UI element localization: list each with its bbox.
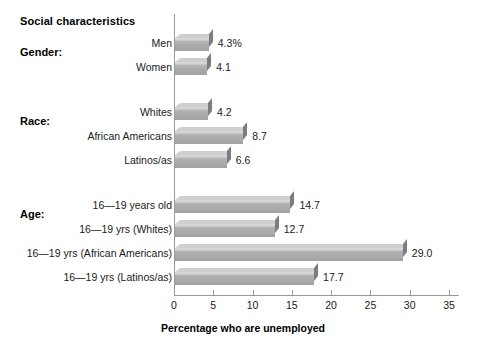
- x-tick-label: 25: [365, 299, 377, 311]
- bar: [175, 248, 403, 261]
- group-heading: Age:: [20, 208, 44, 220]
- category-label: Women: [136, 61, 172, 73]
- x-tick-label: 15: [286, 299, 298, 311]
- category-label: 16—19 yrs (Whites): [79, 223, 172, 235]
- plot-area: 4.3%4.14.28.76.614.712.729.017.7 0510152…: [174, 14, 470, 296]
- x-tick: [370, 290, 371, 296]
- x-tick-label: 5: [210, 299, 216, 311]
- bar-value-label: 12.7: [284, 223, 304, 235]
- x-tick: [213, 290, 214, 296]
- x-tick-label: 0: [171, 299, 177, 311]
- bar: [175, 62, 207, 75]
- x-axis-line: [174, 295, 459, 296]
- x-tick-label: 35: [443, 299, 455, 311]
- bar-value-label: 29.0: [412, 247, 432, 259]
- category-label: 16—19 yrs (Latinos/as): [63, 271, 172, 283]
- x-tick: [253, 290, 254, 296]
- x-tick-label: 10: [247, 299, 259, 311]
- category-label: 16—19 years old: [93, 199, 172, 211]
- category-label: 16—19 yrs (African Americans): [27, 247, 172, 259]
- category-label: Latinos/as: [124, 154, 172, 166]
- page-title: Social characteristics: [20, 15, 135, 27]
- bar: [175, 131, 243, 144]
- bar-value-label: 17.7: [323, 271, 343, 283]
- chart-figure: Social characteristics Gender:Race:Age: …: [0, 0, 486, 348]
- x-tick: [174, 290, 175, 296]
- x-axis-title: Percentage who are unemployed: [0, 322, 486, 334]
- bar-value-label: 6.6: [236, 154, 251, 166]
- category-label: Men: [152, 37, 172, 49]
- bar: [175, 272, 314, 285]
- group-heading: Gender:: [20, 46, 62, 58]
- bar-value-label: 4.2: [217, 106, 232, 118]
- x-tick-label: 20: [325, 299, 337, 311]
- bar: [175, 107, 208, 120]
- group-heading: Race:: [20, 115, 50, 127]
- bar-value-label: 14.7: [299, 199, 319, 211]
- bar: [175, 200, 290, 213]
- bar-value-label: 4.1: [216, 61, 231, 73]
- x-tick: [410, 290, 411, 296]
- bar-value-label: 8.7: [252, 130, 267, 142]
- x-tick-label: 30: [404, 299, 416, 311]
- category-label: African Americans: [87, 130, 172, 142]
- bar: [175, 155, 227, 168]
- bar: [175, 224, 275, 237]
- bar: [175, 38, 209, 51]
- x-tick: [292, 290, 293, 296]
- x-tick: [331, 290, 332, 296]
- x-tick: [449, 290, 450, 296]
- bar-value-label: 4.3%: [218, 37, 242, 49]
- category-label: Whites: [140, 106, 172, 118]
